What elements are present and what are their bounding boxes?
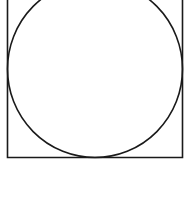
square-outline [8,0,183,158]
diagram-canvas [0,0,186,217]
inscribed-circle [8,0,183,158]
